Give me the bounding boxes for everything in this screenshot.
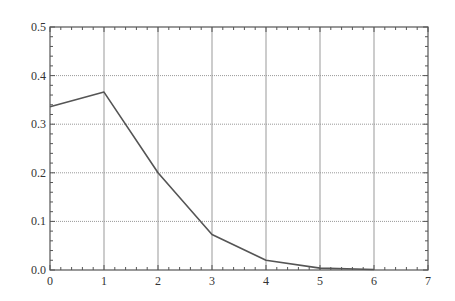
- x-tick-label: 2: [155, 274, 161, 288]
- x-tick-label: 5: [317, 274, 323, 288]
- line-chart: 01234567 0.00.10.20.30.40.5: [0, 0, 455, 301]
- x-tick-label: 6: [371, 274, 377, 288]
- grid-lines: [50, 27, 428, 270]
- x-tick-label: 7: [425, 274, 431, 288]
- y-tick-label: 0.4: [31, 69, 46, 83]
- y-tick-label: 0.1: [31, 214, 46, 228]
- x-tick-label: 1: [101, 274, 107, 288]
- y-tick-labels: 0.00.10.20.30.40.5: [31, 20, 46, 277]
- x-tick-label: 0: [47, 274, 53, 288]
- x-tick-labels: 01234567: [47, 274, 431, 288]
- minor-ticks: [50, 27, 428, 270]
- x-tick-label: 4: [263, 274, 269, 288]
- y-tick-label: 0.0: [31, 263, 46, 277]
- plot-frame: [50, 27, 428, 270]
- x-tick-label: 3: [209, 274, 215, 288]
- y-tick-label: 0.5: [31, 20, 46, 34]
- y-tick-label: 0.3: [31, 117, 46, 131]
- y-tick-label: 0.2: [31, 166, 46, 180]
